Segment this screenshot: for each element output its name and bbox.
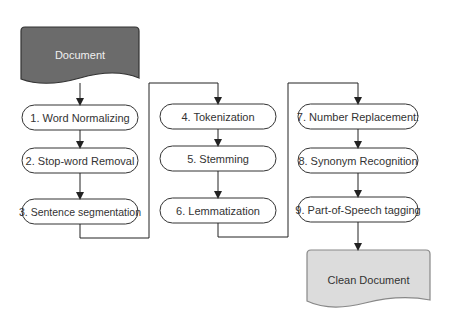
step-label-2: 2. Stop-word Removal — [22, 148, 138, 173]
step-label-3: 3. Sentence segmentation — [22, 199, 138, 224]
step-label-6: 6. Lemmatization — [160, 198, 276, 223]
step-label-1: 1. Word Normalizing — [22, 105, 138, 130]
output-document-label: Clean Document — [307, 270, 430, 290]
step-label-4: 4. Tokenization — [160, 104, 276, 129]
step-label-7: 7. Number Replacement: — [298, 104, 418, 129]
input-document-label: Document — [21, 45, 139, 65]
step-label-8: 8. Synonym Recognition — [298, 148, 418, 173]
step-label-9: 9. Part-of-Speech tagging — [298, 197, 418, 222]
step-label-5: 5. Stemming — [160, 146, 276, 171]
